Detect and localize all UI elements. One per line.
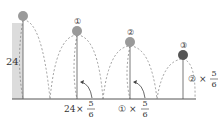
- arrow-1: [81, 82, 92, 98]
- ball-0: [18, 11, 28, 21]
- rebound-label-1: 24 × 5 6: [64, 99, 95, 119]
- trajectory-1-up: [50, 35, 77, 99]
- trajectory-0: [23, 20, 50, 99]
- rebound-1-times: ×: [76, 104, 84, 114]
- rebound-label-3: ② × 5 6: [188, 69, 218, 89]
- ball-3-label: ③: [180, 41, 187, 50]
- rebound-1-denominator: 6: [88, 110, 93, 119]
- rebound-1-base: 24: [64, 104, 76, 114]
- ball-2-label: ②: [127, 28, 134, 37]
- arrow-2: [134, 82, 145, 98]
- rebound-2-base: ①: [118, 104, 126, 114]
- rebound-3-numerator: 5: [211, 69, 216, 78]
- ball-1-label: ①: [74, 17, 81, 26]
- trajectory-2-up: [103, 46, 130, 99]
- rebound-2-numerator: 5: [142, 99, 147, 108]
- trajectory-1-inner: [74, 35, 77, 99]
- trajectory-3-up: [157, 59, 183, 99]
- rebound-3-times: ×: [199, 74, 207, 84]
- arrow-2-head-icon: [133, 80, 137, 84]
- bouncing-ball-diagram: ① ② ③ 24 24 × 5 6 ① × 5 6 ② × 5 6: [0, 0, 224, 129]
- rebound-2-denominator: 6: [142, 110, 147, 119]
- ball-1: [72, 26, 82, 36]
- ball-2: [125, 37, 135, 47]
- trajectory-2-inner: [127, 46, 130, 99]
- arrow-1-head-icon: [80, 80, 84, 84]
- rebound-label-2: ① × 5 6: [118, 99, 149, 119]
- rebound-3-denominator: 6: [211, 80, 216, 89]
- initial-height-label: 24: [6, 56, 19, 67]
- rebound-3-base: ②: [188, 74, 196, 84]
- rebound-1-numerator: 5: [88, 99, 93, 108]
- rebound-2-times: ×: [129, 104, 137, 114]
- ball-3: [178, 50, 188, 60]
